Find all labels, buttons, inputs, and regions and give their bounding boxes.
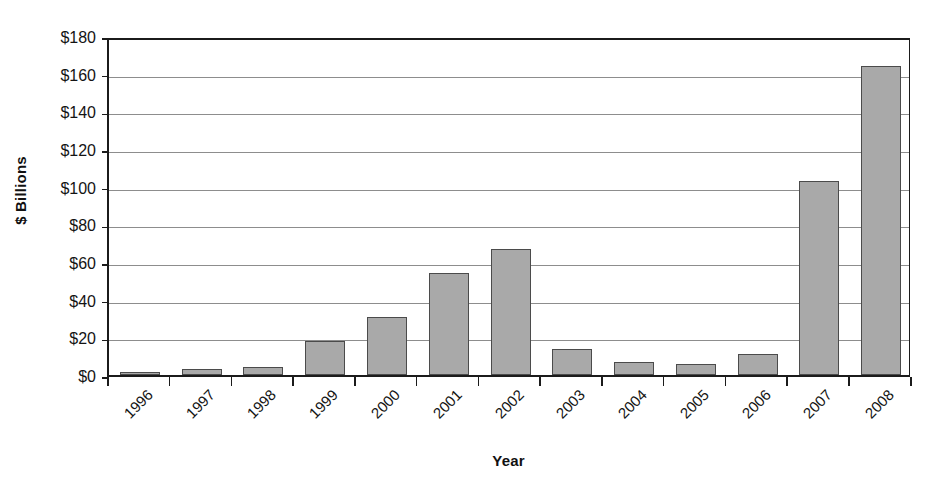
x-axis-title: Year: [107, 452, 910, 469]
x-axis-tickmark: [725, 377, 727, 386]
bar: [614, 362, 654, 375]
y-axis-tick-label: $0: [78, 368, 96, 386]
x-axis-tick-label: 2004: [601, 386, 650, 435]
y-axis-tick-label: $20: [69, 330, 96, 348]
bar: [799, 181, 839, 375]
x-axis-tick-label: 2008: [848, 386, 897, 435]
y-axis-tickmark: [102, 302, 109, 304]
x-axis-tickmark: [910, 377, 912, 386]
x-axis-tickmark: [231, 377, 233, 386]
x-axis-tickmark: [292, 377, 294, 386]
bar: [182, 369, 222, 375]
bars-group: [109, 39, 909, 375]
bar: [861, 66, 901, 375]
y-axis-tickmark: [102, 264, 109, 266]
y-axis-tick-label: $120: [60, 142, 96, 160]
y-axis-tick-label: $80: [69, 217, 96, 235]
x-axis-tickmark: [539, 377, 541, 386]
bar: [738, 354, 778, 375]
y-axis-tickmark: [102, 114, 109, 116]
y-axis-tick-label: $180: [60, 29, 96, 47]
x-axis-tickmark: [786, 377, 788, 386]
bar: [367, 317, 407, 375]
bar: [305, 341, 345, 375]
x-axis-tickmark: [169, 377, 171, 386]
y-axis-tick-labels: $0$20$40$60$80$100$120$140$160$180: [38, 38, 104, 377]
y-axis-tick-label: $160: [60, 67, 96, 85]
x-axis-tick-label: 2001: [416, 386, 465, 435]
x-axis-tick-label: 2003: [539, 386, 588, 435]
bar: [243, 367, 283, 375]
bar: [491, 249, 531, 375]
x-axis-tickmarks: [107, 377, 910, 386]
bar-chart: $ Billions $0$20$40$60$80$100$120$140$16…: [0, 0, 936, 494]
y-axis-tickmark: [102, 189, 109, 191]
x-axis-tick-label: 1999: [292, 386, 341, 435]
bar: [552, 349, 592, 375]
x-axis-tick-labels: 1996199719981999200020012002200320042005…: [107, 386, 910, 446]
x-axis-tickmark: [416, 377, 418, 386]
x-axis-tick-label: 2007: [787, 386, 836, 435]
x-axis-tickmark: [354, 377, 356, 386]
bar: [429, 273, 469, 375]
x-axis-tick-label: 2006: [725, 386, 774, 435]
y-axis-tickmark: [102, 227, 109, 229]
y-axis-tick-label: $100: [60, 180, 96, 198]
x-axis-tick-label: 1998: [231, 386, 280, 435]
y-axis-tick-label: $60: [69, 255, 96, 273]
y-axis-title-label: $ Billions: [12, 156, 29, 225]
y-axis-tickmark: [102, 38, 109, 40]
x-axis-tickmark: [478, 377, 480, 386]
y-axis-title: $ Billions: [0, 0, 40, 380]
x-axis-tickmark: [601, 377, 603, 386]
y-axis-tickmark: [102, 340, 109, 342]
bar: [676, 364, 716, 375]
y-axis-tick-label: $40: [69, 293, 96, 311]
x-axis-tick-label: 1997: [169, 386, 218, 435]
x-axis-tick-label: 1996: [107, 386, 156, 435]
x-axis-tickmark: [107, 377, 109, 386]
x-axis-tick-label: 2005: [663, 386, 712, 435]
x-axis-tickmark: [848, 377, 850, 386]
y-axis-tick-label: $140: [60, 104, 96, 122]
x-axis-tickmark: [663, 377, 665, 386]
y-axis-tickmark: [102, 151, 109, 153]
plot-area: [107, 38, 910, 377]
bar: [120, 372, 160, 375]
x-axis-tick-label: 2002: [478, 386, 527, 435]
y-axis-tickmark: [102, 76, 109, 78]
x-axis-tick-label: 2000: [354, 386, 403, 435]
